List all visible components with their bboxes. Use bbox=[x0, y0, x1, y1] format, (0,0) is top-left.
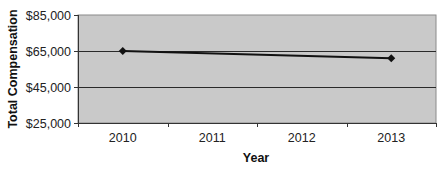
y-tick-label: $85,000 bbox=[26, 9, 71, 23]
x-tick-label: 2011 bbox=[199, 131, 226, 145]
plot-area bbox=[78, 15, 436, 123]
line-chart: $25,000$45,000$65,000$85,000 20102011201… bbox=[0, 0, 439, 176]
y-tick-label: $25,000 bbox=[26, 117, 71, 131]
x-tick-label: 2013 bbox=[377, 131, 405, 145]
y-axis-title: Total Compensation bbox=[6, 9, 20, 128]
x-axis: 2010201120122013 bbox=[78, 123, 437, 145]
y-tick-label: $65,000 bbox=[26, 45, 71, 59]
x-tick-label: 2010 bbox=[109, 131, 137, 145]
x-tick-label: 2012 bbox=[288, 131, 316, 145]
y-axis: $25,000$45,000$65,000$85,000 bbox=[26, 9, 79, 131]
y-tick-label: $45,000 bbox=[26, 81, 71, 95]
x-axis-title: Year bbox=[243, 151, 270, 165]
